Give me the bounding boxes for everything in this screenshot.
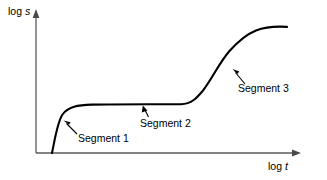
x-axis-label-prefix: log (268, 160, 282, 172)
segment-1-leader (64, 121, 78, 135)
x-axis (36, 150, 301, 157)
y-axis (33, 9, 40, 153)
figure-canvas: log s log t Segment 1 Segment 2 Segment … (0, 0, 327, 180)
y-axis-label-prefix: log (8, 5, 22, 17)
segment-2-leader (142, 106, 149, 118)
y-axis-label-variable: s (25, 5, 30, 17)
segment-2-label: Segment 2 (140, 118, 191, 129)
segment-3-label: Segment 3 (238, 83, 289, 94)
segment-1-label: Segment 1 (78, 133, 129, 144)
y-axis-label: log s (8, 6, 30, 17)
x-axis-label: log t (268, 161, 288, 172)
x-axis-label-variable: t (285, 160, 288, 172)
